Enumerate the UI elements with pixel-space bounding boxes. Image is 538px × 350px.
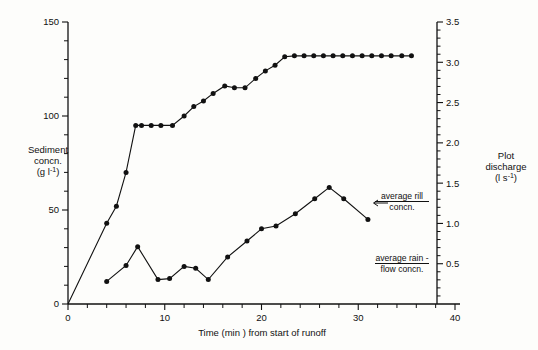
data-point [222, 83, 227, 88]
annotation-rainflow: average rain -flow concn. [375, 253, 429, 274]
data-point [135, 244, 140, 249]
x-axis-title: Time (min ) from start of runoff [198, 327, 326, 338]
data-point [360, 53, 365, 58]
right-axis-title: Plot discharge (l s-1) [485, 150, 526, 183]
data-point [225, 255, 230, 260]
data-point [321, 53, 326, 58]
y-right-tick-label: 2.0 [446, 137, 459, 148]
data-point [282, 54, 287, 59]
chart-figure: 0501001500102030400.51.01.52.02.53.03.5 … [0, 0, 538, 350]
data-point [139, 123, 144, 128]
data-point [155, 277, 160, 282]
y-right-tick-label: 3.0 [446, 57, 459, 68]
left-axis-title-line3: (g l-1) [37, 166, 60, 178]
data-point [389, 53, 394, 58]
data-point [232, 85, 237, 90]
left-axis-title: Sediment concn. (g l-1) [28, 144, 68, 177]
y-right-tick-label: 0.5 [446, 258, 459, 269]
annotations: average rillconcn.average rain -flow con… [374, 191, 430, 274]
data-point [193, 266, 198, 271]
y-tick-label: 150 [43, 16, 59, 27]
data-point [312, 196, 317, 201]
y-right-tick-label: 3.5 [446, 16, 459, 27]
data-point [273, 63, 278, 68]
x-tick-label: 0 [65, 312, 70, 323]
y-right-tick-label: 2.5 [446, 97, 459, 108]
sediment-discharge-line-chart: 0501001500102030400.51.01.52.02.53.03.5 … [0, 0, 538, 350]
y-right-tick-label: 1.0 [446, 218, 459, 229]
data-point [167, 276, 172, 281]
annotation-line2: flow concn. [381, 264, 424, 274]
x-tick-label: 40 [450, 312, 461, 323]
x-tick-label: 30 [353, 312, 364, 323]
data-series [68, 53, 414, 304]
data-point [379, 53, 384, 58]
data-point [182, 114, 187, 119]
data-point [253, 76, 258, 81]
y-tick-label: 100 [43, 110, 59, 121]
data-point [263, 68, 268, 73]
data-point [311, 53, 316, 58]
right-axis-title-line1: Plot [498, 150, 515, 161]
data-point [182, 264, 187, 269]
series-polyline [107, 187, 368, 281]
data-point [327, 185, 332, 190]
data-point [201, 98, 206, 103]
y-tick-label: 0 [54, 298, 59, 309]
data-point [331, 53, 336, 58]
annotation-line2: concn. [389, 202, 414, 212]
x-tick-label: 20 [256, 312, 267, 323]
data-point [158, 123, 163, 128]
data-point [292, 53, 297, 58]
right-axis-title-line2: discharge [485, 161, 526, 172]
data-point [191, 104, 196, 109]
data-point [133, 123, 138, 128]
y-right-tick-label: 1.5 [446, 178, 459, 189]
left-axis-title-line1: Sediment [28, 144, 68, 155]
data-point [340, 53, 345, 58]
data-point [409, 53, 414, 58]
data-point [369, 53, 374, 58]
annotation-rill: average rillconcn. [374, 191, 430, 212]
data-point [365, 217, 370, 222]
series-1 [104, 185, 370, 284]
right-axis-title-line3: (l s-1) [495, 172, 517, 184]
data-point [104, 221, 109, 226]
data-point [170, 123, 175, 128]
data-point [244, 239, 249, 244]
data-point [293, 211, 298, 216]
y-tick-label: 50 [48, 204, 59, 215]
data-point [350, 53, 355, 58]
data-point [211, 91, 216, 96]
series-polyline [68, 56, 411, 304]
data-point [124, 170, 129, 175]
annotation-line1: average rain - [375, 253, 428, 263]
data-point [341, 196, 346, 201]
data-point [149, 123, 154, 128]
data-point [206, 277, 211, 282]
x-tick-label: 10 [159, 312, 170, 323]
data-point [243, 85, 248, 90]
data-point [302, 53, 307, 58]
axes: 0501001500102030400.51.01.52.02.53.03.5 [43, 16, 460, 323]
data-point [104, 279, 109, 284]
data-point [114, 204, 119, 209]
left-axis-title-line2: concn. [34, 155, 62, 166]
data-point [259, 226, 264, 231]
annotation-line1: average rill [381, 191, 423, 201]
series-0 [68, 53, 414, 304]
data-point [124, 263, 129, 268]
data-point [399, 53, 404, 58]
data-point [274, 223, 279, 228]
